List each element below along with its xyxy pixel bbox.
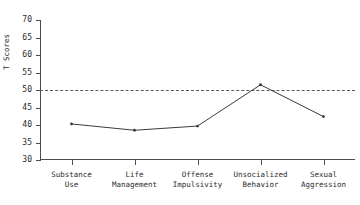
y-tick-label-35: 35 xyxy=(6,139,32,147)
y-tick-label-70: 70 xyxy=(6,16,32,24)
y-tick-label-30: 30 xyxy=(6,156,32,164)
y-tick-label-45: 45 xyxy=(6,104,32,112)
data-point-1 xyxy=(133,129,136,132)
x-tick-label-4: Sexual Aggression xyxy=(279,170,360,189)
data-point-0 xyxy=(70,123,73,126)
plot-area: 303540455055606570 Substance UseLife Man… xyxy=(40,20,355,160)
y-tick-label-60: 60 xyxy=(6,51,32,59)
data-point-4 xyxy=(322,115,325,118)
x-tick-3 xyxy=(261,160,262,165)
series-markers xyxy=(70,83,325,131)
y-tick-label-65: 65 xyxy=(6,34,32,42)
series-polyline xyxy=(72,85,324,131)
y-tick-30 xyxy=(36,160,41,161)
y-tick-label-55: 55 xyxy=(6,69,32,77)
chart-figure: T Scores 303540455055606570 Substance Us… xyxy=(0,0,360,205)
y-tick-label-50: 50 xyxy=(6,86,32,94)
x-tick-4 xyxy=(324,160,325,165)
x-tick-1 xyxy=(135,160,136,165)
data-series-line xyxy=(40,20,355,160)
data-point-3 xyxy=(259,83,262,86)
x-tick-2 xyxy=(198,160,199,165)
y-tick-label-40: 40 xyxy=(6,121,32,129)
x-tick-0 xyxy=(72,160,73,165)
data-point-2 xyxy=(196,125,199,128)
